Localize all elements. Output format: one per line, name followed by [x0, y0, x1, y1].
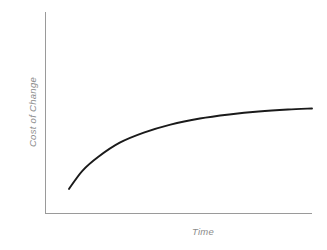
chart-container: Cost of Change Time [0, 0, 327, 250]
x-axis-label: Time [143, 226, 263, 237]
chart-plot-area [0, 0, 327, 250]
y-axis-label: Cost of Change [27, 52, 38, 172]
cost-of-change-curve [69, 108, 312, 188]
